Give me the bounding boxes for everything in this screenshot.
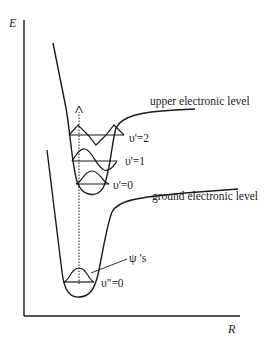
upper-level-v0-label: υ'=0 [113,179,133,191]
upper-potential-curve [53,43,195,194]
energy-diagram: E R upper electronic level υ'=2 υ'=1 υ'=… [0,0,280,347]
upper-level-v2-label: υ'=2 [129,132,149,144]
upper-level-v1-label: υ'=1 [125,155,145,167]
upper-curve-label: upper electronic level [150,95,250,108]
ground-level-v0-label: υ"=0 [101,277,124,289]
ground-curve-label: ground electronic level [152,190,258,203]
psi-label: ψ 's [129,251,147,265]
arrowhead-icon [76,106,83,113]
ground-potential-curve [47,150,238,297]
upper-wavefunction-v0 [76,171,109,184]
y-axis-label: E [8,16,17,30]
psi-pointer [91,259,127,273]
x-axis-label: R [227,322,236,336]
